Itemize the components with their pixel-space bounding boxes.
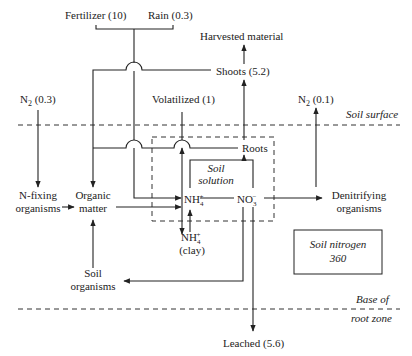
organic-matter-label-1: Organic (75, 189, 110, 201)
volatilized-label: Volatilized (1) (152, 93, 215, 106)
soil-organisms-label-1: Soil (84, 267, 102, 279)
n2-input-label: N2 (0.3) (20, 93, 56, 108)
denitrifying-organisms-label-1: Denitrifying (332, 189, 387, 201)
soil-nitrogen-value: 360 (329, 252, 347, 264)
soil-solution-label-2: solution (198, 174, 234, 186)
roots-label: Roots (242, 142, 268, 154)
soil-solution-label-1: Soil (207, 162, 224, 174)
rain-label: Rain (0.3) (148, 9, 193, 22)
base-of-label: Base of (356, 293, 391, 305)
soil-organisms-label-2: organisms (70, 280, 115, 292)
clay-label: (clay) (179, 244, 205, 257)
leached-label: Leached (5.6) (223, 337, 284, 350)
harvested-material-label: Harvested material (200, 30, 283, 42)
no3-label: NO3− (237, 193, 257, 208)
soil-surface-label: Soil surface (346, 108, 398, 120)
organic-matter-label-2: matter (79, 202, 107, 214)
n2-output-label: N2 (0.1) (298, 93, 334, 108)
shoots-label: Shoots (5.2) (216, 65, 270, 78)
denitrifying-organisms-label-2: organisms (336, 202, 381, 214)
n-fixing-organisms-label-2: organisms (15, 202, 60, 214)
n-fixing-organisms-label-1: N-fixing (19, 189, 57, 201)
root-zone-label: root zone (351, 312, 392, 324)
nh4-label: NH4+ (184, 193, 204, 208)
fertilizer-label: Fertilizer (10) (65, 9, 127, 22)
nitrogen-cycle-diagram: Fertilizer (10) Rain (0.3) N2 (0.3) Harv… (0, 0, 412, 356)
soil-nitrogen-label: Soil nitrogen (310, 238, 367, 250)
